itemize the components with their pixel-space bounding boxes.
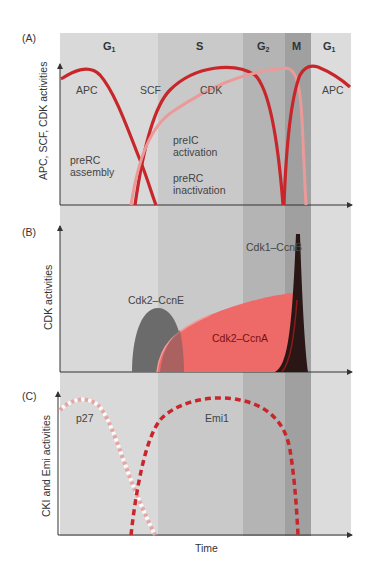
phase-bands bbox=[60, 33, 351, 536]
label-scf: SCF bbox=[140, 84, 161, 96]
label-prerc-assembly-2: assembly bbox=[70, 166, 115, 178]
label-apc-right: APC bbox=[322, 84, 344, 96]
panel-b-tag: (B) bbox=[22, 226, 36, 238]
cell-cycle-figure: G1 S G2 M G1 (A) APC, SCF, CDK activitie… bbox=[0, 0, 371, 580]
label-preic-2: activation bbox=[173, 146, 218, 158]
label-cdk: CDK bbox=[200, 84, 222, 96]
label-preic-1: preIC bbox=[173, 134, 199, 146]
band-g2 bbox=[243, 33, 285, 536]
label-p27: p27 bbox=[76, 412, 94, 424]
phase-label-m: M bbox=[292, 40, 301, 52]
label-cdk2-ccne: Cdk2–CcnE bbox=[128, 294, 184, 306]
band-s bbox=[158, 33, 243, 536]
label-emi1: Emi1 bbox=[205, 412, 229, 424]
phase-label-s: S bbox=[196, 40, 203, 52]
band-g1-right bbox=[311, 33, 351, 536]
panel-c-tag: (C) bbox=[22, 390, 37, 402]
panel-c-y-label: CKI and Emi activities bbox=[40, 415, 52, 517]
label-cdk1-ccnb: Cdk1–CcnB bbox=[246, 241, 302, 253]
panel-c-x-label: Time bbox=[195, 542, 218, 554]
label-apc-left: APC bbox=[76, 84, 98, 96]
label-prerc-inact-2: inactivation bbox=[173, 184, 226, 196]
label-cdk2-ccna: Cdk2–CcnA bbox=[212, 332, 268, 344]
label-prerc-inact-1: preRC bbox=[173, 172, 204, 184]
label-prerc-assembly-1: preRC bbox=[70, 154, 101, 166]
panel-a-tag: (A) bbox=[22, 32, 36, 44]
panel-a-y-label: APC, SCF, CDK activities bbox=[37, 62, 49, 180]
panel-b-y-label: CDK activities bbox=[42, 265, 54, 330]
